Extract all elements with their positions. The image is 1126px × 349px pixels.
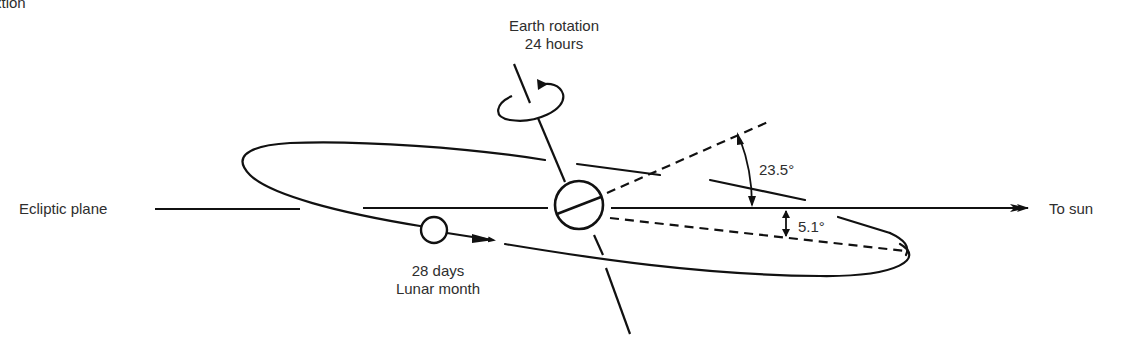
moon-icon — [421, 217, 447, 243]
earth-icon — [555, 181, 603, 229]
equator-tilt-line — [607, 122, 768, 193]
earth-moon-orbit-diagram — [0, 0, 1126, 349]
rotation-arrowhead — [537, 79, 548, 90]
tilt-angle-arc — [740, 139, 752, 205]
